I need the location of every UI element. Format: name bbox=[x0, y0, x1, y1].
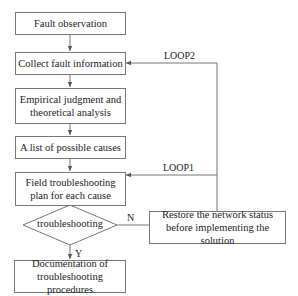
node-empirical-analysis: Empirical judgment and theoretical analy… bbox=[15, 88, 126, 124]
node-label-line1: Empirical judgment and bbox=[20, 93, 121, 106]
edge-label-no: N bbox=[127, 212, 134, 223]
node-label-line2: troubleshooting procedures bbox=[15, 270, 125, 296]
node-label-line1: Documentation of bbox=[32, 257, 108, 270]
node-label: Collect fault information bbox=[18, 57, 122, 70]
node-restore-network-status: Restore the network status before implem… bbox=[149, 211, 286, 244]
node-label-line1: Field troubleshooting bbox=[25, 176, 115, 189]
node-label-line2: theoretical analysis bbox=[30, 106, 111, 119]
node-label-line2: plan for each cause bbox=[30, 189, 111, 202]
edge-label-loop2: LOOP2 bbox=[164, 50, 195, 61]
node-label: A list of possible causes bbox=[20, 141, 121, 154]
node-label-line2: before implementing the solution bbox=[150, 221, 285, 247]
node-documentation: Documentation of troubleshooting procedu… bbox=[14, 260, 126, 293]
decision-label: troubleshooting bbox=[23, 218, 117, 229]
node-fault-observation: Fault observation bbox=[15, 12, 126, 35]
edge-label-loop1: LOOP1 bbox=[163, 162, 194, 173]
node-troubleshooting-plan: Field troubleshooting plan for each caus… bbox=[15, 172, 126, 206]
node-collect-fault-information: Collect fault information bbox=[15, 52, 126, 75]
node-possible-causes: A list of possible causes bbox=[15, 136, 126, 159]
node-label: Fault observation bbox=[34, 17, 107, 30]
node-label-line1: Restore the network status bbox=[162, 208, 273, 221]
